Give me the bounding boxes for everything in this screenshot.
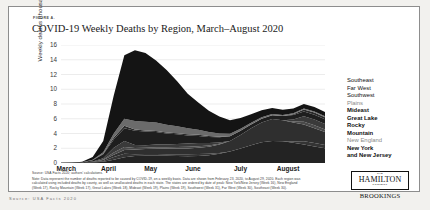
y-axis-tick-label: 2 <box>31 145 57 151</box>
legend-item: Far West <box>347 85 421 93</box>
legend-item: Southeast <box>347 77 421 85</box>
figure-card: FIGURE A. COVID-19 Weekly Deaths by Regi… <box>8 6 420 192</box>
logo-project-text: PROJECT <box>352 184 408 187</box>
x-axis-tick-label: June <box>185 165 200 172</box>
logo-brookings-text: BROOKINGS <box>351 192 409 199</box>
y-axis-tick-label: 10 <box>31 86 57 92</box>
y-axis-tick-label: 0 <box>31 160 57 166</box>
legend-item: Plains <box>347 100 421 108</box>
note-text: Note: Data represent the number of death… <box>32 177 308 190</box>
legend-item: Rocky <box>347 122 421 130</box>
legend-item: Great Lake <box>347 115 421 123</box>
stacked-area-chart <box>61 45 325 163</box>
x-axis-tick-label: August <box>277 165 300 172</box>
hamilton-logo-box: THE HAMILTON PROJECT <box>351 171 409 190</box>
source-line: Source: USA Facts 2020; authors' calcula… <box>32 171 103 175</box>
y-axis-tick-label: 14 <box>31 57 57 63</box>
page-background: FIGURE A. COVID-19 Weekly Deaths by Regi… <box>0 0 430 210</box>
legend-item: Mideast <box>347 107 421 115</box>
y-axis-tick-label: 4 <box>31 131 57 137</box>
y-axis-tick-label: 12 <box>31 72 57 78</box>
x-axis-tick-label: July <box>234 165 247 172</box>
hamilton-brookings-logo: THE HAMILTON PROJECT BROOKINGS <box>351 171 409 199</box>
y-axis-tick-label: 8 <box>31 101 57 107</box>
y-axis-tick-label: 6 <box>31 116 57 122</box>
figure-title: COVID-19 Weekly Deaths by Region, March–… <box>32 23 283 34</box>
chart-plot-area <box>61 45 325 163</box>
chart-legend: SoutheastFar WestSouthwestPlainsMideastG… <box>347 77 421 160</box>
legend-item: Southwest <box>347 92 421 100</box>
x-axis-tick-label: May <box>144 165 157 172</box>
legend-item: Mountain <box>347 130 421 138</box>
legend-item: New England <box>347 137 421 145</box>
legend-item: and New Jersey <box>347 152 421 160</box>
legend-item: New York <box>347 145 421 153</box>
outside-caption: Source: USA Facts 2020 <box>9 196 77 201</box>
y-axis-tick-label: 16 <box>31 42 57 48</box>
y-axis-ticks: 0246810121416 <box>31 45 57 163</box>
x-axis-tick-label: April <box>101 165 116 172</box>
